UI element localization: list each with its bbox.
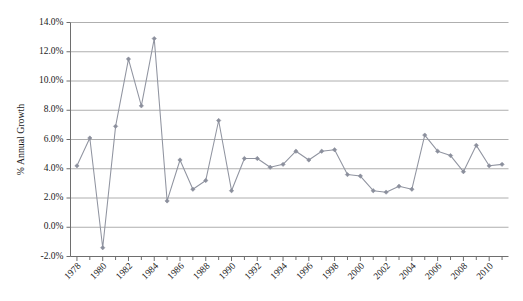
data-point <box>152 36 156 40</box>
x-tick-label: 1980 <box>88 261 109 282</box>
x-tick-label: 1986 <box>165 261 186 282</box>
y-tick-label: -2.0% <box>41 251 64 261</box>
data-point <box>216 118 220 122</box>
data-point <box>126 57 130 61</box>
data-point <box>384 190 388 194</box>
x-tick-label: 1998 <box>320 261 341 282</box>
x-tick-label: 1994 <box>268 261 289 282</box>
x-tick-label: 2006 <box>423 261 444 282</box>
annual-growth-line-chart: -2.0%0.0%2.0%4.0%6.0%8.0%10.0%12.0%14.0%… <box>0 0 523 301</box>
y-tick-label: 14.0% <box>39 17 64 27</box>
x-tick-label: 1992 <box>243 261 264 282</box>
x-tick-label: 1982 <box>114 261 135 282</box>
y-axis: -2.0%0.0%2.0%4.0%6.0%8.0%10.0%12.0%14.0% <box>39 17 71 261</box>
data-point <box>500 162 504 166</box>
y-axis-title: % Annual Growth <box>15 104 26 175</box>
y-tick-label: 12.0% <box>39 46 64 56</box>
data-point <box>165 199 169 203</box>
data-point <box>139 104 143 108</box>
y-tick-label: 2.0% <box>44 192 64 202</box>
y-tick-label: 8.0% <box>44 104 64 114</box>
data-point <box>75 164 79 168</box>
data-series <box>75 36 505 250</box>
y-tick-label: 10.0% <box>39 75 64 85</box>
data-point <box>178 158 182 162</box>
data-point <box>242 156 246 160</box>
x-tick-label: 2004 <box>397 261 418 282</box>
x-axis: 1978198019821984198619881990199219941996… <box>62 257 508 282</box>
data-point <box>345 172 349 176</box>
x-tick-label: 2010 <box>475 261 496 282</box>
data-point <box>332 148 336 152</box>
x-tick-label: 1996 <box>294 261 315 282</box>
x-tick-label: 2002 <box>372 261 393 282</box>
x-tick-label: 1988 <box>191 261 212 282</box>
y-tick-label: 4.0% <box>44 163 64 173</box>
data-point <box>101 246 105 250</box>
x-tick-label: 2000 <box>346 261 367 282</box>
data-point <box>410 187 414 191</box>
gridlines <box>71 23 509 228</box>
series-line <box>77 39 502 248</box>
chart-container: -2.0%0.0%2.0%4.0%6.0%8.0%10.0%12.0%14.0%… <box>0 0 523 301</box>
x-tick-label: 2008 <box>449 261 470 282</box>
y-tick-label: 0.0% <box>44 221 64 231</box>
data-point <box>397 184 401 188</box>
x-tick-label: 1984 <box>140 261 161 282</box>
y-tick-label: 6.0% <box>44 134 64 144</box>
x-tick-label: 1990 <box>217 261 238 282</box>
data-point <box>113 124 117 128</box>
x-tick-label: 1978 <box>62 261 83 282</box>
data-point <box>229 188 233 192</box>
